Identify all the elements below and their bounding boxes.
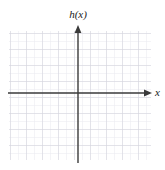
coordinate-graph-figure: h(x) x bbox=[0, 0, 165, 170]
y-axis-label: h(x) bbox=[0, 9, 156, 20]
y-axis-arrowhead bbox=[75, 25, 82, 33]
axes-layer bbox=[0, 0, 165, 170]
x-axis-label: x bbox=[155, 87, 160, 98]
x-axis-arrowhead bbox=[144, 90, 152, 97]
